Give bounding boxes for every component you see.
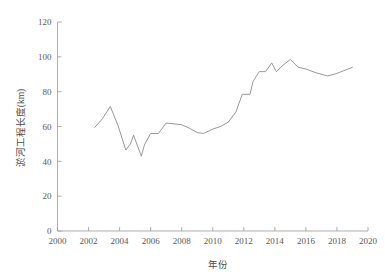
y-tick-label: 120 [38, 17, 52, 27]
x-tick-label: 2016 [297, 236, 316, 246]
axes-group [58, 22, 369, 231]
y-tick-label: 80 [43, 87, 53, 97]
x-tick-label: 2008 [173, 236, 192, 246]
x-axis-title: 年份 [208, 259, 228, 270]
y-tick-label: 100 [38, 52, 52, 62]
x-tick-label: 2000 [49, 236, 68, 246]
y-tick-label: 0 [47, 226, 52, 236]
y-tick-label: 20 [43, 191, 53, 201]
x-tick-label: 2020 [359, 236, 378, 246]
x-tick-label: 2004 [111, 236, 130, 246]
x-tick-labels-group: 2000200220042006200820102012201420162018… [49, 236, 378, 246]
x-tick-label: 2014 [266, 236, 285, 246]
x-tick-label: 2018 [328, 236, 347, 246]
chart-figure: 2000200220042006200820102012201420162018… [0, 0, 385, 276]
tick-marks-group [58, 22, 369, 231]
y-tick-labels-group: 020406080100120 [38, 17, 52, 236]
x-tick-label: 2010 [204, 236, 223, 246]
x-tick-label: 2002 [80, 236, 98, 246]
x-tick-label: 2006 [142, 236, 161, 246]
x-tick-label: 2012 [235, 236, 253, 246]
y-axis-title: 淤河工程长度(km) [15, 89, 27, 167]
y-tick-label: 40 [43, 157, 53, 167]
y-tick-label: 60 [43, 122, 53, 132]
data-series-group [95, 59, 353, 156]
line-chart: 2000200220042006200820102012201420162018… [0, 0, 385, 276]
series-line-淤河工程长度 [95, 59, 353, 156]
